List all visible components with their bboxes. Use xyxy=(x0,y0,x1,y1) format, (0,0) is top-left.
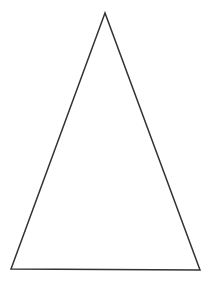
canvas xyxy=(0,0,209,283)
triangle-shape xyxy=(11,13,200,270)
